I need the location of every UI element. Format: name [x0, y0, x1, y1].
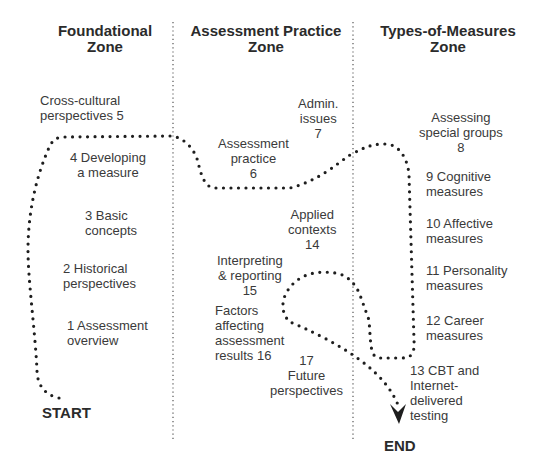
topic-13-cbt: 13 CBT and Internet- delivered testing	[410, 363, 479, 423]
topic-1-overview: 1 Assessment overview	[67, 318, 148, 348]
end-arrow-icon	[390, 404, 406, 424]
topic-6-practice: Assessment practice 6	[218, 136, 289, 181]
topic-10-affective: 10 Affective measures	[426, 216, 493, 246]
zone-title-foundational: Foundational Zone	[55, 23, 155, 55]
topic-14-applied: Applied contexts 14	[288, 207, 336, 252]
zone-title-types-of-measures: Types-of-Measures Zone	[380, 23, 516, 55]
topic-4-developing: 4 Developing a measure	[70, 150, 146, 180]
topic-8-special-groups: Assessing special groups 8	[419, 110, 503, 155]
topic-9-cognitive: 9 Cognitive measures	[426, 169, 491, 199]
topic-3-basic: 3 Basic concepts	[85, 208, 137, 238]
topic-17-future: 17 Future perspectives	[270, 353, 343, 398]
topic-15-interpreting: Interpreting & reporting 15	[217, 253, 283, 298]
topic-12-career: 12 Career measures	[426, 313, 484, 343]
zone-title-assessment-practice: Assessment Practice Zone	[183, 23, 349, 55]
end-label: END	[384, 437, 416, 454]
topic-7-admin: Admin. issues 7	[298, 96, 338, 141]
start-label: START	[42, 404, 91, 421]
topic-11-personality: 11 Personality measures	[426, 263, 507, 293]
topic-5-cross-cultural: Cross-cultural perspectives 5	[40, 93, 124, 123]
topic-2-historical: 2 Historical perspectives	[63, 261, 136, 291]
